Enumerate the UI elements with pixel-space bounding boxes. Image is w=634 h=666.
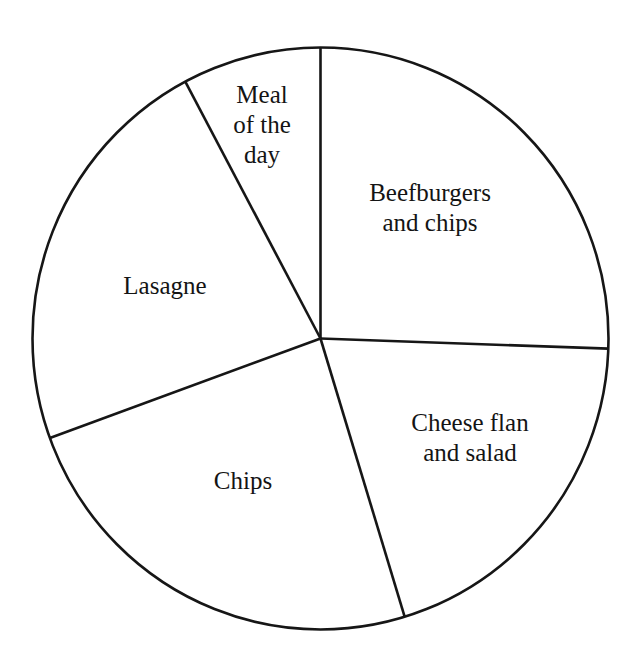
pie-chart: Beefburgersand chipsCheese flanand salad… — [0, 0, 634, 666]
pie-label-line: of the — [233, 111, 291, 138]
pie-label-line: Lasagne — [123, 272, 206, 299]
pie-chart-container: Beefburgersand chipsCheese flanand salad… — [0, 0, 634, 666]
pie-label-line: and salad — [423, 439, 517, 466]
pie-label-line: Meal — [236, 81, 287, 108]
pie-label-line: Chips — [214, 467, 272, 494]
pie-label-line: Beefburgers — [369, 179, 491, 206]
pie-label-line: and chips — [382, 209, 477, 236]
pie-label-chips: Chips — [214, 467, 272, 494]
pie-label-line: day — [244, 141, 281, 168]
pie-label-line: Cheese flan — [411, 409, 529, 436]
pie-label-lasagne: Lasagne — [123, 272, 206, 299]
